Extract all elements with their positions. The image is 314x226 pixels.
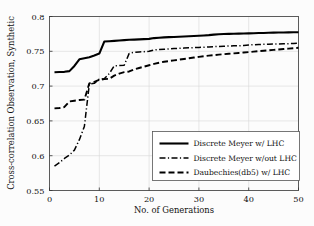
chart-legend: Discrete Meyer w/ LHCDiscrete Meyer w/ou… <box>153 132 300 181</box>
y-tick-label: 0.7 <box>31 81 44 91</box>
legend-label-1: Discrete Meyer w/out LHC <box>194 154 297 163</box>
y-tick-label: 0.55 <box>26 186 44 196</box>
x-axis-title: No. of Generations <box>134 205 214 215</box>
x-tick-label: 10 <box>94 194 104 204</box>
y-tick-label: 0.6 <box>31 151 44 161</box>
series-line-0 <box>54 32 298 72</box>
legend-label-0: Discrete Meyer w/ LHC <box>194 139 285 148</box>
x-tick-label: 20 <box>144 194 154 204</box>
y-tick-label: 0.75 <box>26 46 44 56</box>
chart-canvas: 010203040500.550.60.650.70.750.8 No. of … <box>0 0 314 226</box>
x-tick-label: 0 <box>47 194 52 204</box>
legend-label-2: Daubechies(db5) w/ LHC <box>194 168 291 177</box>
chart-figure: 010203040500.550.60.650.70.750.8 No. of … <box>0 0 314 226</box>
x-tick-label: 30 <box>194 194 204 204</box>
x-tick-label: 40 <box>243 194 253 204</box>
y-tick-label: 0.8 <box>31 12 44 22</box>
y-tick-label: 0.65 <box>26 116 44 126</box>
y-axis-title: Cross-correlation Observation, Synthetic <box>6 16 16 190</box>
x-tick-label: 50 <box>293 194 303 204</box>
